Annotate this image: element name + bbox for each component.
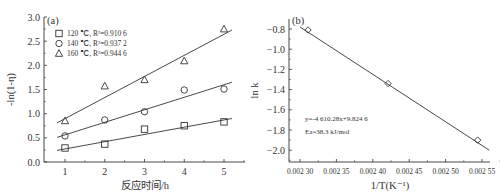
legend-entry: 160 ℃, R²=0.944 6: [67, 49, 127, 58]
triangle-marker: [101, 82, 108, 89]
y-tick-label: 0.0: [28, 157, 41, 168]
panel-a-chart: 0.00.51.01.52.02.53.012345反应时间/h-ln(1-η)…: [5, 12, 245, 191]
y-tick-label: 2.5: [28, 36, 41, 47]
panel-label: (b): [292, 15, 305, 27]
panel-label: (a): [47, 15, 59, 27]
x-tick-label: 3: [142, 166, 147, 177]
square-marker: [62, 145, 68, 151]
x-tick-label: 4: [182, 166, 187, 177]
y-tick-label: −1.6: [267, 104, 285, 115]
x-tick-label: 1: [63, 166, 68, 177]
x-tick-label: 0.002 50: [432, 167, 459, 176]
y-tick-label: 1.5: [28, 84, 41, 95]
x-axis-label: 1/T(K⁻¹): [371, 180, 410, 192]
legend-circle-icon: [56, 40, 62, 46]
y-tick-label: −1.8: [267, 125, 285, 136]
y-tick-label: 2.0: [28, 60, 41, 71]
x-tick-label: 0.002 30: [287, 167, 314, 176]
x-tick-label: 0.002 40: [360, 167, 387, 176]
y-tick-label: −0.8: [267, 24, 285, 35]
triangle-marker: [181, 57, 188, 64]
legend-entry: 140 ℃, R²=0.937 2: [67, 39, 127, 48]
activation-energy: Ea=38.3 kJ/mol: [305, 128, 349, 136]
fit-line: [57, 119, 232, 151]
y-tick-label: 3.0: [28, 12, 41, 23]
x-tick-label: 5: [222, 166, 227, 177]
fit-equation: y=-4 610.28x+9.824 6: [305, 115, 368, 123]
x-axis-label: 反应时间/h: [121, 179, 170, 191]
triangle-marker: [220, 25, 227, 32]
y-tick-label: 1.0: [28, 108, 41, 119]
y-axis-label: ln k: [249, 82, 260, 99]
kinetics-figure: 0.00.51.01.52.02.53.012345反应时间/h-ln(1-η)…: [0, 0, 500, 195]
y-tick-label: −1.2: [267, 64, 285, 75]
triangle-marker: [141, 76, 148, 83]
square-marker: [141, 126, 147, 132]
x-tick-label: 0.002 35: [323, 167, 350, 176]
fit-line: [57, 82, 232, 137]
y-axis-label: -ln(1-η): [5, 73, 17, 106]
y-tick-label: −1.0: [267, 44, 285, 55]
y-tick-label: 0.5: [28, 132, 41, 143]
y-tick-label: −2.0: [267, 145, 285, 156]
legend-triangle-icon: [55, 50, 62, 57]
x-tick-label: 0.002 55: [469, 167, 496, 176]
y-tick-label: −1.4: [267, 84, 285, 95]
circle-marker: [181, 87, 187, 93]
legend-entry: 120 ℃, R²=0.910 6: [67, 29, 127, 38]
legend-square-icon: [56, 30, 62, 36]
x-tick-label: 2: [102, 166, 107, 177]
panel-b-chart: −0.8−1.0−1.2−1.4−1.6−1.8−2.00.002 300.00…: [249, 15, 500, 192]
circle-marker: [221, 86, 227, 92]
x-tick-label: 0.002 45: [396, 167, 423, 176]
